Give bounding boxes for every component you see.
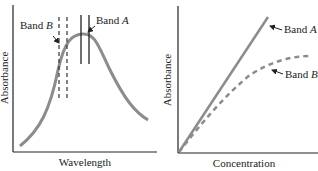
figure: Band B Band A Wavelength Absorbance Band… bbox=[0, 0, 318, 171]
band-b-label-right: Band B bbox=[285, 68, 318, 80]
band-b-label: Band B bbox=[20, 19, 53, 31]
right-y-label: Absorbance bbox=[161, 54, 173, 107]
band-b-pointer bbox=[53, 36, 59, 43]
left-chart: Band B Band A Wavelength Absorbance bbox=[0, 5, 157, 168]
band-b-pointer-right bbox=[272, 70, 283, 74]
band-a-line bbox=[179, 17, 268, 152]
band-a-label-right: Band A bbox=[284, 23, 317, 35]
band-a-pointer-right bbox=[270, 26, 282, 30]
left-y-label: Absorbance bbox=[0, 52, 10, 105]
band-a-label: Band A bbox=[96, 14, 129, 26]
absorption-spectrum-curve bbox=[20, 34, 148, 146]
right-chart: Band A Band B Concentration Absorbance bbox=[161, 6, 318, 169]
left-x-label: Wavelength bbox=[59, 156, 112, 168]
right-x-label: Concentration bbox=[213, 157, 276, 169]
